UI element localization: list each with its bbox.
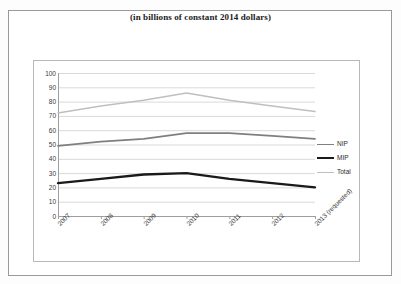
chart-frame: 1009080706050403020100 20072008200920102… [33,60,360,262]
y-tick-label: 20 [36,184,56,191]
y-tick-label: 50 [36,141,56,148]
legend-item-mip[interactable]: MIP [317,151,363,165]
chart-page: (in billions of constant 2014 dollars) 1… [0,0,401,284]
chart-legend: NIPMIPTotal [317,137,363,179]
x-tick-label: 2012 [270,212,285,227]
x-tick-label: 2013 (requested) [313,187,353,227]
plot-area: 1009080706050403020100 20072008200920102… [34,61,361,263]
legend-swatch-nip [317,144,334,145]
x-tick-label: 2008 [99,212,114,227]
y-tick-label: 0 [36,213,56,220]
legend-swatch-total [317,172,334,173]
x-tick-label: 2009 [142,212,157,227]
legend-label: MIP [337,154,349,162]
x-tick-label: 2011 [227,212,242,227]
legend-label: Total [337,168,351,176]
legend-item-nip[interactable]: NIP [317,137,363,151]
y-tick-label: 80 [36,98,56,105]
y-axis-tick-labels: 1009080706050403020100 [35,61,56,263]
y-tick-label: 90 [36,84,56,91]
legend-item-total[interactable]: Total [317,165,363,179]
y-tick-label: 100 [36,70,56,77]
x-tick-label: 2010 [185,212,200,227]
chart-title: (in billions of constant 2014 dollars) [0,12,401,22]
y-tick-label: 40 [36,155,56,162]
y-tick-label: 10 [36,198,56,205]
y-tick-label: 70 [36,112,56,119]
x-axis-tick-labels: 2007200820092010201120122013 (requested) [58,61,361,263]
legend-label: NIP [337,140,348,148]
legend-swatch-mip [317,157,334,159]
y-tick-label: 30 [36,170,56,177]
x-tick-label: 2007 [56,212,71,227]
y-tick-label: 60 [36,127,56,134]
